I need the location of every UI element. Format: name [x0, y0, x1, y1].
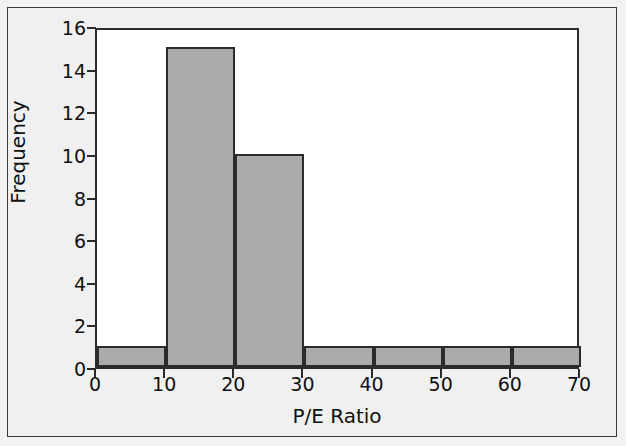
histogram-bar: [97, 346, 166, 367]
bars-container: [97, 30, 577, 367]
histogram-bar: [443, 346, 512, 367]
histogram-bar: [304, 346, 373, 367]
x-axis-tick-labels: 010203040506070: [95, 375, 579, 403]
histogram-figure: Frequency 0246810121416 010203040506070 …: [0, 0, 626, 446]
x-axis-title: P/E Ratio: [95, 404, 579, 428]
x-tick-label: 50: [429, 375, 453, 394]
x-tick-label: 20: [221, 375, 245, 394]
plot-area: [95, 28, 579, 369]
y-tick-label: 4: [74, 274, 86, 293]
y-tick-label: 6: [74, 232, 86, 251]
y-tick-label: 0: [74, 360, 86, 379]
x-tick-label: 0: [89, 375, 101, 394]
y-tick-label: 2: [74, 317, 86, 336]
x-tick-label: 40: [359, 375, 383, 394]
y-tick-label: 12: [62, 104, 86, 123]
x-tick-label: 70: [567, 375, 591, 394]
x-tick-label: 60: [498, 375, 522, 394]
x-tick-label: 10: [152, 375, 176, 394]
y-tick-label: 14: [62, 61, 86, 80]
y-tick-label: 16: [62, 19, 86, 38]
y-axis-title: Frequency: [6, 72, 30, 232]
y-tick-label: 10: [62, 146, 86, 165]
y-axis-title-container: Frequency: [0, 0, 40, 446]
y-axis-tick-labels: 0246810121416: [43, 28, 86, 369]
histogram-bar: [512, 346, 581, 367]
histogram-bar: [235, 154, 304, 367]
histogram-bar: [166, 47, 235, 367]
x-tick-label: 30: [290, 375, 314, 394]
histogram-bar: [374, 346, 443, 367]
y-tick-label: 8: [74, 189, 86, 208]
